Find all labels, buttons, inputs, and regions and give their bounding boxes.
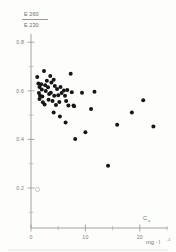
data-point: [51, 99, 55, 103]
data-point: [141, 98, 145, 102]
data-point: [57, 100, 61, 104]
data-point: [52, 78, 56, 82]
data-point: [66, 103, 70, 107]
data-point: [89, 107, 93, 111]
scan-artifact-line: [8, 249, 168, 250]
data-point: [35, 75, 39, 79]
data-point: [58, 114, 62, 118]
x-axis-units-label: mg · l: [146, 239, 160, 245]
scatter-plot-figure: 0.8 0.6 0.4 0.2 E 260 E 230 0 10 20 C a: [0, 0, 176, 252]
data-point: [151, 125, 155, 129]
data-point: [56, 93, 60, 97]
data-point: [55, 87, 59, 91]
x-axis-units: mg · l -1: [146, 238, 170, 245]
data-point: [52, 94, 56, 98]
x-axis-title-symbol: C: [143, 215, 147, 221]
y-tick-label-2: 0.4: [16, 136, 24, 142]
data-points-layer: [35, 69, 155, 168]
data-point: [49, 91, 53, 95]
x-tick-label-2: 20: [137, 234, 143, 240]
origin-marker-annotation: [35, 187, 39, 191]
data-point: [64, 121, 68, 125]
x-axis-units-exponent: -1: [167, 238, 170, 242]
data-point: [92, 90, 96, 94]
data-point: [80, 91, 84, 95]
data-point: [39, 82, 43, 86]
y-axis-title-numerator: E 260: [24, 11, 39, 17]
data-point: [43, 103, 47, 107]
data-point: [73, 137, 77, 141]
data-point: [40, 95, 44, 99]
data-point: [47, 98, 51, 102]
x-tick-label-1: 10: [82, 234, 88, 240]
data-point: [45, 79, 49, 83]
x-axis-title: C a: [143, 215, 151, 223]
data-point: [70, 90, 74, 94]
data-point: [64, 99, 68, 103]
x-tick-label-0: 0: [29, 234, 32, 240]
data-point: [72, 104, 76, 108]
data-point: [58, 85, 62, 89]
data-point: [83, 130, 87, 134]
data-point: [42, 69, 46, 73]
data-point: [62, 88, 66, 92]
data-point: [48, 74, 52, 78]
y-axis-title: E 260 E 230: [22, 11, 48, 28]
data-point: [69, 72, 73, 76]
data-point: [106, 164, 110, 168]
x-axis-title-subscript: a: [148, 219, 151, 223]
data-point: [130, 110, 134, 114]
y-tick-label-0: 0.8: [16, 39, 24, 45]
data-point: [63, 94, 67, 98]
y-axis-title-denominator: E 230: [24, 22, 39, 28]
data-point: [46, 85, 50, 89]
data-point: [65, 88, 69, 92]
data-point: [54, 103, 58, 107]
data-point: [40, 88, 44, 92]
plot-svg: 0.8 0.6 0.4 0.2 E 260 E 230 0 10 20 C a: [0, 0, 176, 252]
data-point: [44, 89, 48, 93]
y-tick-label-1: 0.6: [16, 88, 24, 94]
open-circle-marker: [35, 187, 39, 191]
data-point: [115, 123, 119, 127]
y-tick-label-3: 0.2: [16, 185, 24, 191]
data-point: [52, 110, 56, 114]
